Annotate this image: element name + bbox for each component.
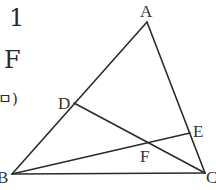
label-f: F bbox=[140, 147, 149, 166]
label-d: D bbox=[58, 94, 70, 113]
segment-ab bbox=[12, 22, 147, 174]
segment-be bbox=[12, 133, 190, 174]
label-b: B bbox=[0, 168, 8, 187]
label-e: E bbox=[193, 122, 203, 141]
segment-ac bbox=[147, 22, 205, 173]
label-a: A bbox=[140, 2, 153, 21]
diagram-canvas: 1 F ㅁ) A B C D E F bbox=[0, 0, 216, 190]
label-c: C bbox=[206, 168, 216, 187]
triangle-figure: A B C D E F bbox=[0, 0, 216, 190]
segment-bc bbox=[12, 173, 205, 174]
